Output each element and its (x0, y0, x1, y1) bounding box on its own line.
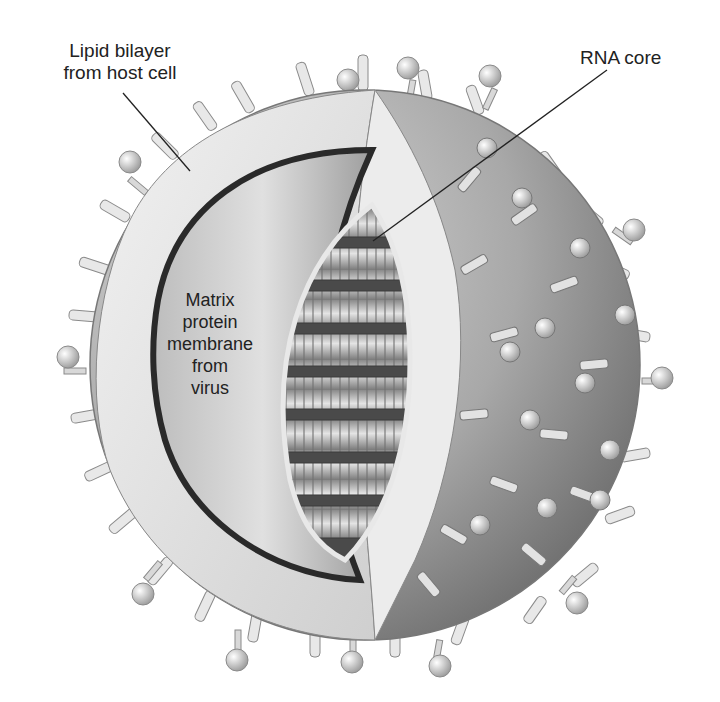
lipid-bilayer-label-line1: Lipid bilayer (40, 40, 200, 62)
matrix-label-line4: from (155, 355, 265, 377)
matrix-label-line1: Matrix (155, 289, 265, 311)
virus-illustration (0, 0, 720, 702)
lipid-bilayer-label: Lipid bilayer from host cell (40, 40, 200, 84)
matrix-label-line3: membrane (155, 333, 265, 355)
matrix-protein-label: Matrix protein membrane from virus (155, 289, 265, 399)
virus-diagram: Lipid bilayer from host cell RNA core Ma… (0, 0, 720, 702)
rna-core-label: RNA core (580, 47, 661, 69)
matrix-label-line2: protein (155, 311, 265, 333)
matrix-label-line5: virus (155, 377, 265, 399)
lipid-bilayer-label-line2: from host cell (40, 62, 200, 84)
